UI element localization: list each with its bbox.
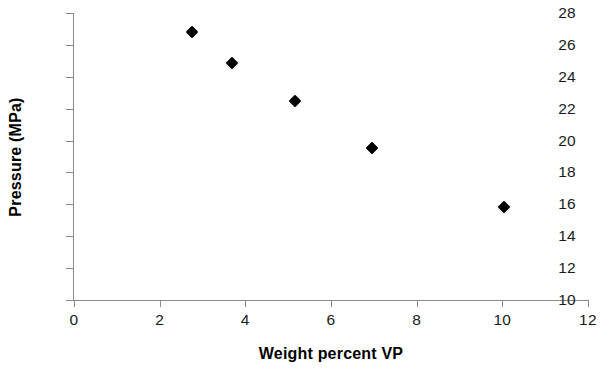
- y-axis-title: Pressure (MPa): [7, 57, 25, 257]
- y-tick-label: 16: [558, 196, 576, 212]
- x-tick-label: 4: [205, 312, 285, 328]
- data-point-marker: [226, 57, 239, 70]
- y-tick-label: 22: [558, 101, 576, 117]
- y-tick-mark: [66, 204, 73, 205]
- x-tick-mark: [588, 300, 589, 307]
- x-tick-mark: [245, 300, 246, 307]
- x-tick-label: 8: [377, 312, 457, 328]
- data-point-marker: [185, 26, 198, 39]
- y-tick-label: 20: [558, 133, 576, 149]
- y-tick-label: 28: [558, 5, 576, 21]
- y-tick-label: 18: [558, 164, 576, 180]
- x-tick-mark: [502, 300, 503, 307]
- x-tick-label: 10: [462, 312, 542, 328]
- y-tick-label: 12: [558, 260, 576, 276]
- plot-area: 10121416182022242628 024681012: [74, 13, 588, 300]
- x-tick-label: 12: [548, 312, 611, 328]
- y-tick-label: 14: [558, 228, 576, 244]
- x-axis-title: Weight percent VP: [74, 345, 588, 363]
- y-tick-label: 24: [558, 69, 576, 85]
- data-point-marker: [288, 94, 301, 107]
- y-tick-label: 26: [558, 37, 576, 53]
- y-tick-mark: [66, 109, 73, 110]
- y-axis-title-wrapper: Pressure (MPa): [0, 0, 30, 330]
- data-point-marker: [498, 200, 511, 213]
- x-tick-mark: [160, 300, 161, 307]
- x-tick-label: 6: [291, 312, 371, 328]
- y-tick-mark: [66, 236, 73, 237]
- y-tick-mark: [66, 268, 73, 269]
- y-tick-label: 10: [558, 292, 576, 308]
- y-tick-mark: [66, 300, 73, 301]
- x-tick-mark: [74, 300, 75, 307]
- x-tick-label: 2: [120, 312, 200, 328]
- y-tick-mark: [66, 141, 73, 142]
- x-tick-mark: [331, 300, 332, 307]
- x-tick-label: 0: [34, 312, 114, 328]
- x-tick-mark: [417, 300, 418, 307]
- data-point-marker: [365, 141, 378, 154]
- y-tick-mark: [66, 172, 73, 173]
- y-tick-mark: [66, 77, 73, 78]
- chart-figure: 10121416182022242628 024681012 Pressure …: [0, 0, 611, 388]
- y-tick-mark: [66, 45, 73, 46]
- y-tick-mark: [66, 13, 73, 14]
